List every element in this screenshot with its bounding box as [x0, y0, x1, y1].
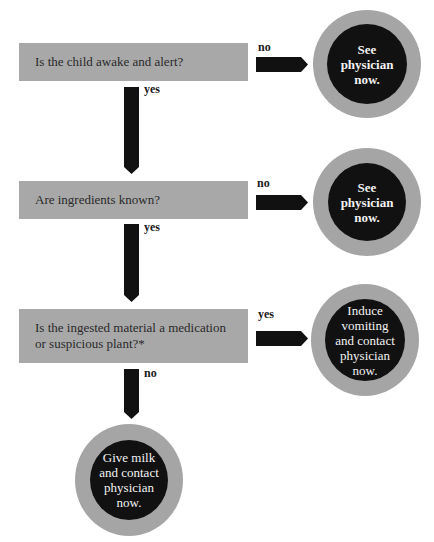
- down-arrow-icon: [124, 87, 139, 174]
- outcome-text: Give milk and contact physician now.: [90, 440, 168, 520]
- edge-label-yes: yes: [144, 220, 160, 235]
- outcome-line: physician: [341, 195, 394, 210]
- question-text: Is the child awake and alert?: [35, 54, 183, 70]
- right-arrow-icon: [256, 331, 308, 346]
- edge-label-yes: yes: [258, 307, 274, 322]
- down-arrow-icon: [124, 224, 139, 302]
- question-box-medication-or-plant: Is the ingested material a medication or…: [19, 309, 248, 363]
- outcome-text: Induce vomiting and contact physician no…: [325, 299, 405, 381]
- edge-label-no: no: [257, 176, 270, 191]
- outcome-line: now.: [99, 495, 159, 510]
- outcome-line: physician: [341, 57, 394, 72]
- outcome-line: See: [341, 42, 394, 57]
- right-arrow-icon: [256, 195, 308, 210]
- edge-label-yes: yes: [144, 82, 160, 97]
- outcome-line: now.: [335, 363, 395, 378]
- outcome-circle-see-physician: See physician now.: [313, 148, 421, 256]
- outcome-line: Induce: [335, 303, 395, 318]
- outcome-text: See physician now.: [328, 163, 406, 241]
- outcome-line: See: [341, 180, 394, 195]
- question-text: Are ingredients known?: [35, 192, 160, 208]
- outcome-line: physician: [335, 348, 395, 363]
- outcome-circle-see-physician: See physician now.: [313, 10, 421, 118]
- down-arrow-icon: [124, 369, 139, 419]
- outcome-line: and contact: [335, 333, 395, 348]
- outcome-circle-give-milk: Give milk and contact physician now.: [75, 424, 183, 536]
- outcome-text: See physician now.: [327, 24, 407, 104]
- outcome-line: Give milk: [99, 450, 159, 465]
- outcome-line: physician: [99, 480, 159, 495]
- question-box-ingredients-known: Are ingredients known?: [19, 181, 248, 219]
- question-box-child-awake: Is the child awake and alert?: [19, 43, 248, 81]
- outcome-line: now.: [341, 210, 394, 225]
- edge-label-no: no: [144, 366, 157, 381]
- right-arrow-icon: [256, 57, 308, 72]
- outcome-line: now.: [341, 72, 394, 87]
- question-text: Is the ingested material a medication or…: [35, 320, 240, 352]
- outcome-line: and contact: [99, 465, 159, 480]
- outcome-circle-induce-vomiting: Induce vomiting and contact physician no…: [311, 284, 419, 396]
- outcome-line: vomiting: [335, 318, 395, 333]
- edge-label-no: no: [258, 40, 271, 55]
